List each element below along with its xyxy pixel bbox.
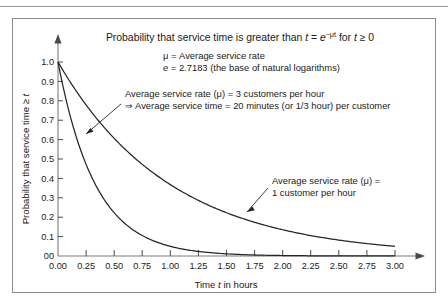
annotation-mu1-line2: 1 customer per hour <box>272 187 356 198</box>
title-equals: = <box>308 32 320 43</box>
y-tick-label-0.9: 0.9 <box>41 77 54 87</box>
y-tick-label-0.8: 0.8 <box>41 96 54 106</box>
y-tick-label-0.3: 0.3 <box>41 193 54 203</box>
y-tick-label-0.6: 0.6 <box>41 135 54 145</box>
x-axis-arrowhead <box>416 252 426 259</box>
annotation-mu1-line1: Average service rate (μ) = <box>272 175 381 186</box>
x-tick-label-2.25: 2.25 <box>302 261 320 271</box>
annotation-mu1-leader-arrow <box>247 188 268 212</box>
x-tick-label-2.50: 2.50 <box>330 261 348 271</box>
title-for: for <box>336 32 354 43</box>
x-axis-title-post: in hours <box>221 279 258 290</box>
annotation-mu3-line1: Average service rate (μ) = 3 customers p… <box>125 88 324 99</box>
y-tick-label-0.2: 0.2 <box>41 212 54 222</box>
y-tick-label-0.1: 0.1 <box>41 232 54 242</box>
y-tick-label-0.7: 0.7 <box>41 115 54 125</box>
x-axis-title: Time t in hours <box>194 279 257 290</box>
x-tick-label-3.00: 3.00 <box>386 261 404 271</box>
y-axis-title-text: Probability that service time ≥ <box>20 96 31 224</box>
y-tick-label-origin: 00 <box>44 251 54 261</box>
note-e-rest: = 2.7183 (the base of natural logarithms… <box>168 62 340 73</box>
y-axis-title: Probability that service time ≥ t <box>20 93 31 224</box>
x-tick-label-0.25: 0.25 <box>77 261 95 271</box>
note-mu-definition: μ = Average service rate <box>163 50 265 61</box>
title-condition: ≥ 0 <box>357 32 374 43</box>
chart-title: Probability that service time is greater… <box>106 30 374 43</box>
y-tick-label-1.0: 1.0 <box>41 57 54 67</box>
y-axis-title-var: t <box>20 93 31 96</box>
y-tick-label-0.4: 0.4 <box>41 174 54 184</box>
y-axis-ticks <box>58 62 63 237</box>
note-e-definition: e = 2.7183 (the base of natural logarith… <box>163 62 340 73</box>
annotation-mu3-line2: ⇒ Average service time = 20 minutes (or … <box>125 100 391 111</box>
x-tick-label-0.50: 0.50 <box>105 261 123 271</box>
y-axis-tick-labels: 1.0 0.9 0.8 0.7 0.6 0.5 0.4 0.3 0.2 0.1 … <box>41 57 54 261</box>
x-tick-label-2.75: 2.75 <box>358 261 376 271</box>
exponential-service-time-chart: Probability that service time is greater… <box>0 0 448 302</box>
x-axis-tick-labels: 0.00 0.25 0.50 0.75 1.00 1.25 1.50 1.75 … <box>49 261 404 271</box>
title-exponent: −μt <box>326 30 336 39</box>
y-tick-label-0.5: 0.5 <box>41 154 54 164</box>
x-tick-label-2.00: 2.00 <box>274 261 292 271</box>
x-tick-label-1.25: 1.25 <box>189 261 207 271</box>
x-tick-label-1.00: 1.00 <box>161 261 179 271</box>
x-tick-label-0.00: 0.00 <box>49 261 67 271</box>
y-axis-arrowhead <box>54 34 61 44</box>
x-tick-label-1.75: 1.75 <box>246 261 264 271</box>
x-axis-title-pre: Time <box>194 279 218 290</box>
title-segment-1: Probability that service time is greater… <box>106 32 305 43</box>
figure-root: Probability that service time is greater… <box>0 0 448 302</box>
x-tick-label-0.75: 0.75 <box>133 261 151 271</box>
x-tick-label-1.50: 1.50 <box>218 261 236 271</box>
annotation-mu3-leader-arrow <box>86 104 121 134</box>
